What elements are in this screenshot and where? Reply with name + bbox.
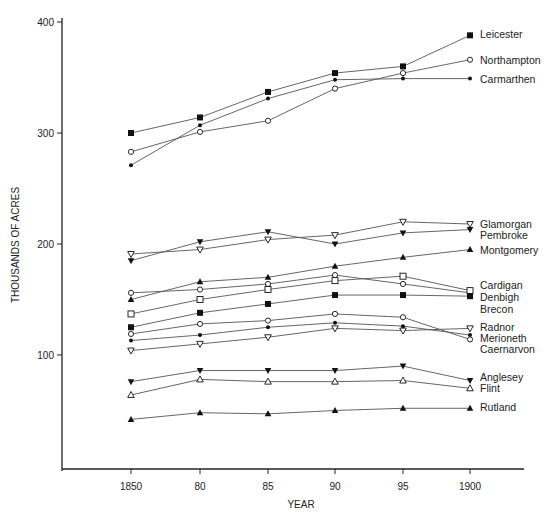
square-marker [332, 292, 338, 298]
square-marker [467, 32, 473, 38]
square-marker [197, 297, 203, 303]
series-cardigan [128, 272, 472, 295]
circle-marker [197, 287, 202, 292]
triangle-up-marker [197, 409, 204, 415]
x-tick-label: 1900 [459, 481, 482, 492]
dot-marker [333, 78, 337, 82]
circle-marker [467, 57, 472, 62]
triangle-down-marker [128, 258, 135, 264]
triangle-up-marker [400, 377, 407, 383]
series-line [131, 314, 470, 340]
series-label-leicester: Leicester [480, 28, 523, 40]
series-label-cardigan: Cardigan [480, 279, 523, 291]
series-northampton [128, 57, 472, 154]
square-marker [265, 287, 271, 293]
series-label-denbigh: Denbigh [480, 291, 519, 303]
circle-marker [128, 290, 133, 295]
square-marker [400, 292, 406, 298]
series-label-pembroke: Pembroke [480, 229, 528, 241]
dot-marker [266, 325, 270, 329]
series-leicester [128, 32, 473, 136]
series-label-rutland: Rutland [480, 401, 516, 413]
series-montgomery [128, 246, 474, 302]
triangle-up-marker [197, 376, 204, 382]
y-tick-label: 200 [37, 239, 54, 250]
series-labels: LeicesterNorthamptonCarmarthenGlamorganP… [480, 28, 541, 413]
square-marker [128, 311, 134, 317]
circle-marker [332, 272, 337, 277]
square-marker [265, 89, 271, 95]
circle-marker [197, 129, 202, 134]
series-rutland [128, 405, 474, 422]
y-tick-label: 100 [37, 350, 54, 361]
square-marker [467, 293, 473, 299]
square-marker [332, 278, 338, 284]
square-marker [265, 301, 271, 307]
series-label-brecon: Brecon [480, 303, 513, 315]
triangle-down-marker [128, 348, 135, 354]
circle-marker [128, 149, 133, 154]
dot-marker [401, 77, 405, 81]
dot-marker [401, 324, 405, 328]
square-marker [128, 324, 134, 330]
x-tick-label: 90 [329, 481, 341, 492]
circle-marker [197, 321, 202, 326]
x-tick-label: 1850 [120, 481, 143, 492]
x-tick-label: 85 [262, 481, 274, 492]
triangle-down-marker [128, 379, 135, 385]
dot-marker [333, 321, 337, 325]
circle-marker [400, 315, 405, 320]
series-brecon [128, 292, 473, 330]
series-label-carmarthen: Carmarthen [480, 73, 536, 85]
circle-marker [332, 86, 337, 91]
square-marker [197, 114, 203, 120]
series-flint [128, 376, 474, 398]
dot-marker [198, 333, 202, 337]
series-label-montgomery: Montgomery [480, 244, 539, 256]
x-tick-label: 80 [194, 481, 206, 492]
square-marker [197, 310, 203, 316]
square-marker [332, 70, 338, 76]
triangle-down-marker [128, 251, 135, 257]
series-merioneth [129, 321, 472, 343]
triangle-up-marker [467, 405, 474, 411]
square-marker [400, 63, 406, 69]
series-line [131, 366, 470, 382]
series-label-northampton: Northampton [480, 54, 541, 66]
x-tick-label: 95 [397, 481, 409, 492]
circle-marker [400, 281, 405, 286]
series-line [131, 250, 470, 300]
series-label-caernarvon: Caernarvon [480, 343, 535, 355]
series-line [131, 35, 470, 133]
y-tick-label: 400 [37, 17, 54, 28]
series-line [131, 379, 470, 395]
square-marker [467, 288, 473, 294]
y-axis-label: THOUSANDS OF ACRES [10, 187, 21, 303]
triangle-down-marker [467, 378, 474, 384]
series-group [128, 32, 474, 422]
acreage-line-chart: 1002003004001850808590951900 LeicesterNo… [0, 0, 547, 525]
series-line [131, 323, 470, 341]
y-tick-label: 300 [37, 128, 54, 139]
circle-marker [128, 331, 133, 336]
series-line [131, 408, 470, 419]
triangle-up-marker [332, 378, 339, 384]
circle-marker [467, 337, 472, 342]
series-line [131, 328, 470, 350]
series-line [131, 230, 470, 261]
series-caernarvon [128, 311, 472, 342]
triangle-down-marker [332, 368, 339, 374]
triangle-down-marker [400, 328, 407, 334]
triangle-up-marker [400, 405, 407, 411]
triangle-down-marker [265, 368, 272, 374]
x-axis-label: YEAR [287, 499, 314, 510]
square-marker [128, 130, 134, 136]
dot-marker [129, 339, 133, 343]
circle-marker [265, 118, 270, 123]
series-glamorgan [128, 219, 474, 257]
circle-marker [400, 70, 405, 75]
series-line [131, 275, 470, 293]
series-line [131, 60, 470, 152]
triangle-down-marker [467, 222, 474, 228]
dot-marker [198, 123, 202, 127]
